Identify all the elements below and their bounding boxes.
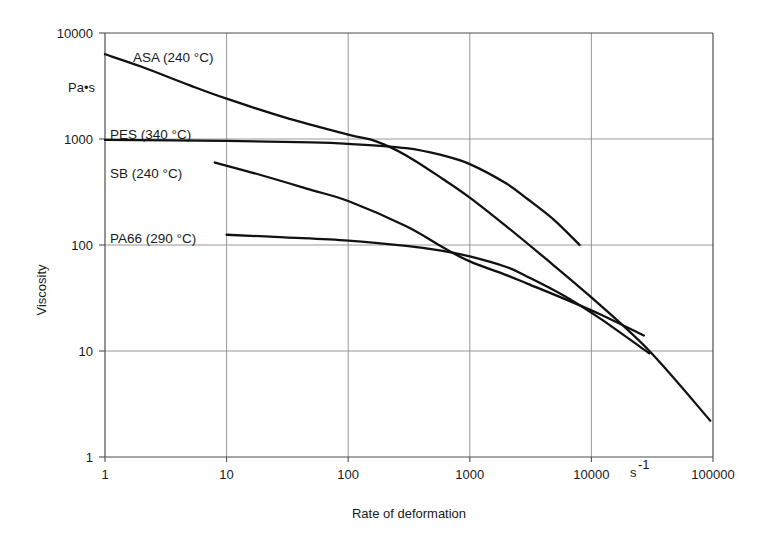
y-tick-label-100: 100: [71, 238, 93, 253]
x-tick-label-10000: 10000: [573, 467, 609, 482]
y-tick-label-10: 10: [79, 344, 93, 359]
series-label-asa: ASA (240 °C): [133, 50, 213, 65]
viscosity-log-log-chart: 110100100010000100000 110100100010000 AS…: [0, 0, 770, 548]
y-tick-label-1000: 1000: [64, 132, 93, 147]
chart-figure: 110100100010000100000 110100100010000 AS…: [0, 0, 770, 548]
x-tick-label-100: 100: [337, 467, 359, 482]
x-tick-label-10: 10: [219, 467, 233, 482]
chart-background: [0, 0, 770, 548]
y-axis-unit-label: Pa•s: [68, 80, 95, 95]
x-tick-label-100000: 100000: [691, 467, 734, 482]
x-axis-title: Rate of deformation: [352, 506, 466, 521]
y-tick-label-10000: 10000: [57, 26, 93, 41]
series-label-pes: PES (340 °C): [110, 127, 191, 142]
x-tick-label-1: 1: [101, 467, 108, 482]
y-tick-label-1: 1: [86, 450, 93, 465]
series-label-sb: SB (240 °C): [110, 166, 182, 181]
x-axis-unit-exponent: -1: [638, 457, 650, 472]
series-label-pa66: PA66 (290 °C): [110, 231, 196, 246]
x-tick-label-1000: 1000: [455, 467, 484, 482]
x-axis-unit-label: s: [630, 465, 637, 480]
y-axis-title: Viscosity: [34, 264, 49, 316]
